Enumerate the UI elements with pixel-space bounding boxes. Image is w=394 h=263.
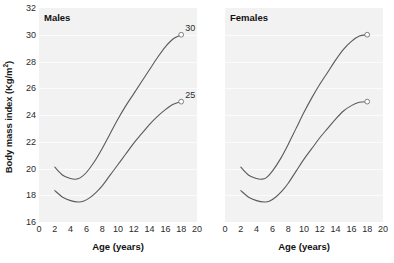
x-axis-tick-label-males: 16 (160, 224, 170, 234)
y-axis-title-close: ) (3, 61, 14, 64)
x-axis-tick-label-females: 6 (270, 224, 275, 234)
x-axis-tick-label-females: 16 (346, 224, 356, 234)
x-axis-tick-label-males: 6 (84, 224, 89, 234)
centile-curve (241, 102, 367, 202)
y-axis-tick-label: 24 (26, 110, 36, 120)
x-axis-tick-label-males: 20 (192, 224, 202, 234)
endpoint-label-males-lower: 25 (185, 90, 195, 100)
x-axis-tick-label-females: 8 (286, 224, 291, 234)
y-axis-tick-label: 20 (26, 164, 36, 174)
endpoint-marker (179, 32, 184, 37)
x-axis-tick-label-females: 10 (299, 224, 309, 234)
panel-females-plot (225, 8, 383, 222)
panel-males (39, 8, 197, 222)
x-axis-title-males: Age (years) (39, 241, 197, 252)
x-axis-ticks-females: 02468101214161820 (225, 224, 383, 238)
y-axis-title-text: Body mass index (Kg/m (3, 68, 14, 174)
y-axis-tick-label: 28 (26, 57, 36, 67)
y-axis-title: Body mass index (Kg/m2) (0, 0, 16, 235)
x-axis-tick-label-females: 4 (254, 224, 259, 234)
bmi-centile-figure: Body mass index (Kg/m2) 1618202224262830… (0, 0, 394, 263)
panel-females-title: Females (230, 12, 268, 23)
y-axis-tick-label: 22 (26, 137, 36, 147)
y-axis-ticks: 161820222426283032 (16, 0, 38, 235)
endpoint-marker (365, 32, 370, 37)
x-axis-tick-label-males: 4 (68, 224, 73, 234)
endpoint-marker (179, 99, 184, 104)
y-axis-tick-label: 16 (26, 217, 36, 227)
x-axis-tick-label-females: 0 (222, 224, 227, 234)
x-axis-tick-label-females: 18 (362, 224, 372, 234)
x-axis-tick-label-males: 2 (52, 224, 57, 234)
x-axis-tick-label-males: 8 (100, 224, 105, 234)
endpoint-marker (365, 99, 370, 104)
y-axis-tick-label: 18 (26, 190, 36, 200)
endpoint-label-males-upper: 30 (185, 23, 195, 33)
centile-curve (55, 35, 181, 179)
x-axis-tick-label-females: 2 (238, 224, 243, 234)
y-axis-title-exponent: 2 (2, 64, 9, 68)
x-axis-tick-label-males: 10 (113, 224, 123, 234)
x-axis-tick-label-males: 12 (129, 224, 139, 234)
x-axis-tick-label-males: 0 (36, 224, 41, 234)
panel-females (225, 8, 383, 222)
panel-males-title: Males (44, 12, 70, 23)
centile-curve (55, 102, 181, 202)
y-axis-tick-label: 26 (26, 83, 36, 93)
x-axis-tick-label-males: 18 (176, 224, 186, 234)
x-axis-ticks-males: 02468101214161820 (39, 224, 197, 238)
x-axis-tick-label-females: 14 (331, 224, 341, 234)
x-axis-tick-label-females: 12 (315, 224, 325, 234)
x-axis-tick-label-females: 20 (378, 224, 388, 234)
panel-males-plot (39, 8, 197, 222)
y-axis-tick-label: 30 (26, 30, 36, 40)
x-axis-tick-label-males: 14 (145, 224, 155, 234)
x-axis-title-females: Age (years) (225, 241, 383, 252)
y-axis-tick-label: 32 (26, 3, 36, 13)
